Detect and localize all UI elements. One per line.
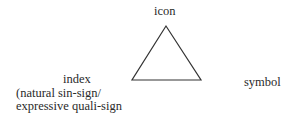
index-note-line-2: expressive quali-sign [16, 100, 122, 113]
symbol-label: symbol [244, 76, 281, 89]
triangle [132, 26, 201, 80]
icon-label: icon [154, 5, 176, 18]
index-label: index [63, 73, 91, 86]
